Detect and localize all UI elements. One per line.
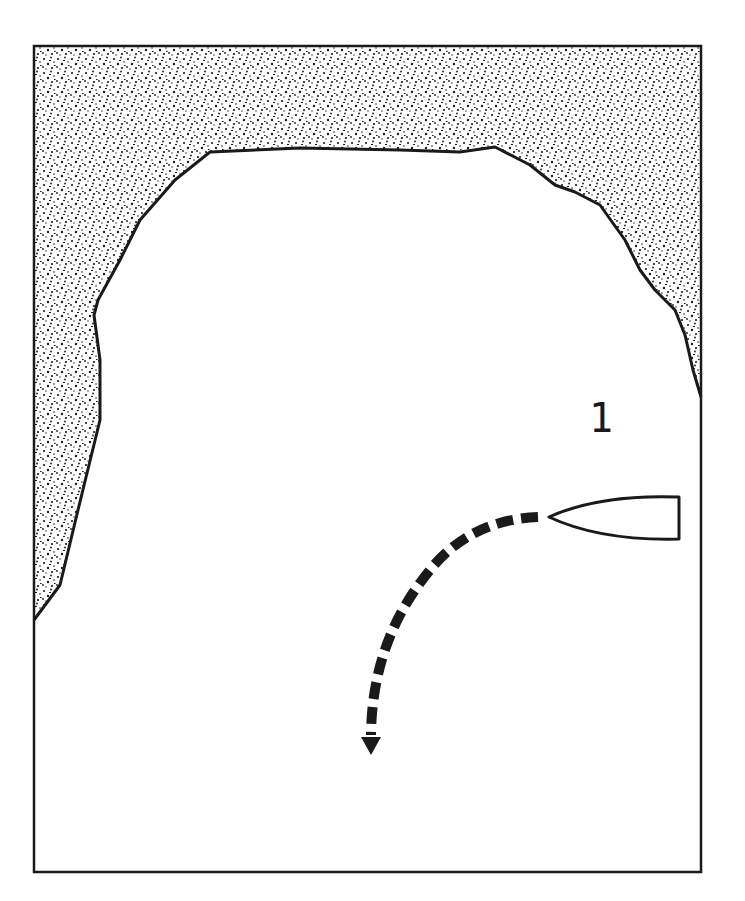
harbor-diagram — [0, 0, 745, 901]
arrow-head-icon — [361, 737, 381, 755]
position-label: 1 — [589, 398, 613, 438]
boat-icon — [549, 497, 679, 540]
course-arrow-path — [371, 517, 538, 735]
